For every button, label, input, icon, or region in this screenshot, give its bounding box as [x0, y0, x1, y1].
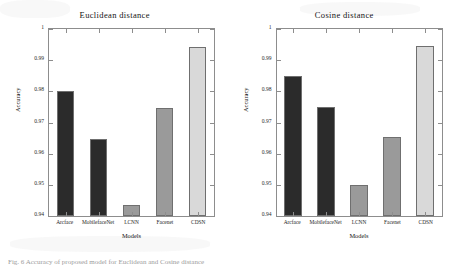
x-axis-title-euclidean: Models — [48, 232, 215, 239]
x-tick-mark — [359, 212, 360, 216]
y-tick-mark-right — [438, 216, 442, 217]
x-tick-mark-top — [99, 29, 100, 33]
panel-cosine: Cosine distance Accuracy 0.940.950.960.9… — [230, 0, 459, 250]
y-tick-label: 0.94 — [262, 211, 272, 217]
x-tick-mark-top — [326, 29, 327, 33]
x-tick-mark — [66, 212, 67, 216]
x-tick-mark — [198, 212, 199, 216]
figure-caption: Fig. 6 Accuracy of proposed model for Eu… — [8, 258, 452, 269]
x-tick-mark-top — [293, 29, 294, 33]
chart-panels: Euclidean distance Accuracy 0.940.950.96… — [0, 0, 459, 250]
bar-mobilefacenet — [317, 107, 334, 216]
y-tick-label: 0.99 — [34, 55, 44, 61]
x-tick-label: CDSN — [419, 219, 433, 225]
y-tick-mark — [277, 216, 281, 217]
x-tick-mark-top — [165, 29, 166, 33]
x-tick-label: MobilefaceNet — [309, 219, 341, 225]
figure-container: Euclidean distance Accuracy 0.940.950.96… — [0, 0, 459, 269]
chart-title-cosine: Cosine distance — [230, 10, 459, 20]
bars-cosine — [277, 29, 442, 216]
plot-area-euclidean: 0.940.950.960.970.980.991 — [48, 28, 215, 217]
x-tick-mark — [99, 212, 100, 216]
y-tick-label: 0.96 — [34, 149, 44, 155]
x-tick-label: LCNN — [124, 219, 139, 225]
x-tick-mark-top — [359, 29, 360, 33]
x-tick-label: Arcface — [56, 219, 73, 225]
x-tick-mark-top — [66, 29, 67, 33]
y-tick-label: 0.97 — [34, 118, 44, 124]
x-tick-label: Facenet — [384, 219, 401, 225]
x-tick-label: Facenet — [157, 219, 174, 225]
y-tick-label: 0.98 — [262, 86, 272, 92]
x-tick-label: LCNN — [352, 219, 367, 225]
y-tick-label: 0.95 — [34, 180, 44, 186]
x-tick-mark — [132, 212, 133, 216]
x-tick-mark-top — [132, 29, 133, 33]
y-tick-label: 0.98 — [34, 86, 44, 92]
y-tick-mark-right — [210, 216, 214, 217]
bars-euclidean — [49, 29, 214, 216]
x-tick-mark-top — [198, 29, 199, 33]
bar-cdsn — [189, 47, 206, 216]
x-tick-label: Arcface — [284, 219, 301, 225]
bar-arcface — [284, 76, 301, 216]
x-tick-mark-top — [425, 29, 426, 33]
x-tick-mark — [293, 212, 294, 216]
bar-facenet — [383, 137, 400, 216]
y-tick-label: 0.97 — [262, 118, 272, 124]
chart-title-euclidean: Euclidean distance — [0, 10, 230, 20]
panel-euclidean: Euclidean distance Accuracy 0.940.950.96… — [0, 0, 230, 250]
bar-facenet — [156, 108, 173, 216]
bar-arcface — [57, 91, 74, 216]
x-tick-labels-cosine: ArcfaceMobilefaceNetLCNNFacenetCDSN — [276, 219, 443, 231]
y-tick-label: 0.99 — [262, 55, 272, 61]
plot-area-cosine: 0.940.950.960.970.980.991 — [276, 28, 443, 217]
y-tick-label: 0.96 — [262, 149, 272, 155]
x-tick-label: MobilefaceNet — [82, 219, 114, 225]
y-axis-title-euclidean: Accuracy — [14, 88, 21, 112]
bar-mobilefacenet — [90, 139, 107, 216]
y-axis-title-cosine: Accuracy — [242, 88, 249, 112]
x-tick-mark-top — [392, 29, 393, 33]
y-tick-mark — [49, 216, 53, 217]
y-tick-label: 1 — [41, 24, 44, 30]
x-tick-labels-euclidean: ArcfaceMobilefaceNetLCNNFacenetCDSN — [48, 219, 215, 231]
y-tick-label: 0.95 — [262, 180, 272, 186]
x-tick-mark — [425, 212, 426, 216]
x-tick-mark — [326, 212, 327, 216]
bar-cdsn — [416, 46, 433, 216]
y-tick-label: 1 — [269, 24, 272, 30]
x-tick-mark — [392, 212, 393, 216]
x-tick-label: CDSN — [191, 219, 205, 225]
x-tick-mark — [165, 212, 166, 216]
y-tick-label: 0.94 — [34, 211, 44, 217]
x-axis-title-cosine: Models — [276, 232, 443, 239]
